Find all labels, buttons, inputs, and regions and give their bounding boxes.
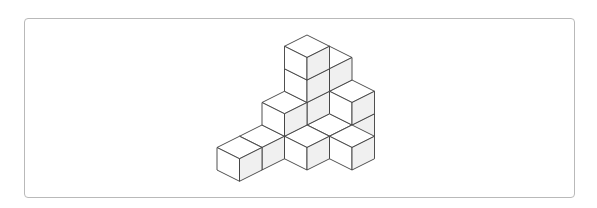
cube-layer [217,35,375,181]
isometric-cube-stack [0,0,597,208]
